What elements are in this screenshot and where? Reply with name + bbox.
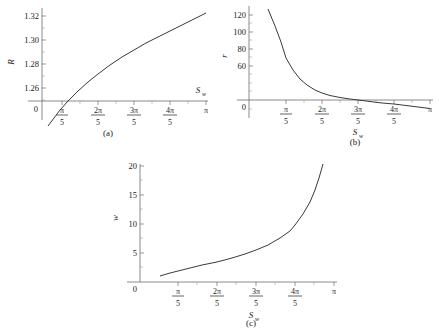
x-tick-label-b-2-den: 5: [320, 117, 324, 126]
x-tick-label-c-2-den: 5: [215, 299, 219, 308]
y-tick-label-a-1: 1.26: [24, 83, 39, 93]
x-tick-label-b-3-num: 3π: [354, 105, 362, 114]
panel-a: 1.32 1.30 1.28 1.26 0 R π 5 2π 5 3π 5 4π…: [0, 0, 215, 150]
plot-c-svg: 20 15 10 5 0 w π 5 2π 5 3π 5 4π 5 π S w: [105, 160, 345, 334]
origin-label-a: 0: [34, 104, 38, 114]
y-axis-label-b: r: [219, 54, 229, 58]
x-tick-label-b-1-num: π: [284, 105, 288, 114]
x-axis-label-b: S: [353, 127, 358, 137]
panel-c: 20 15 10 5 0 w π 5 2π 5 3π 5 4π 5 π S w: [105, 160, 345, 334]
plot-b-svg: 120 100 80 60 0 r π 5 2π 5 3π 5 4π 5 π S…: [215, 0, 439, 155]
panel-b: 120 100 80 60 0 r π 5 2π 5 3π 5 4π 5 π S…: [215, 0, 439, 155]
curve-b: [268, 9, 430, 109]
x-tick-label-b-3-den: 5: [356, 117, 360, 126]
panel-b-caption: (b): [335, 137, 375, 147]
x-tick-label-a-3-num: 3π: [130, 106, 138, 115]
x-tick-label-a-1-den: 5: [60, 118, 64, 127]
y-tick-label-a-3: 1.30: [24, 35, 39, 45]
x-tick-label-a-4-num: 4π: [166, 106, 174, 115]
x-tick-label-a-2-den: 5: [96, 118, 100, 127]
y-tick-label-c-5: 5: [133, 248, 137, 258]
x-tick-label-a-5: π: [204, 106, 208, 115]
x-tick-label-a-3-den: 5: [132, 118, 136, 127]
x-tick-label-b-4-num: 4π: [390, 105, 398, 114]
y-tick-label-a-4: 1.32: [24, 11, 39, 21]
x-tick-label-b-1-den: 5: [284, 117, 288, 126]
y-tick-label-b-120: 120: [233, 10, 246, 20]
x-tick-label-b-5: π: [428, 105, 432, 114]
origin-label-c: 0: [133, 284, 137, 294]
y-tick-label-a-2: 1.28: [24, 59, 39, 69]
x-tick-label-a-4-den: 5: [168, 118, 172, 127]
x-axis-label-a: S: [196, 85, 201, 95]
x-tick-label-c-5: π: [332, 287, 336, 296]
x-tick-label-b-4-den: 5: [392, 117, 396, 126]
x-tick-label-c-3-den: 5: [254, 299, 258, 308]
origin-label-b: 0: [242, 102, 246, 112]
y-tick-label-c-20: 20: [129, 161, 138, 171]
x-tick-label-a-2-num: 2π: [94, 106, 102, 115]
x-tick-label-c-4-num: 4π: [291, 287, 299, 296]
x-axis-label-a-sub: w: [202, 91, 206, 97]
y-axis-label-a: R: [6, 59, 16, 66]
y-tick-label-b-80: 80: [238, 44, 247, 54]
y-tick-label-b-100: 100: [233, 27, 246, 37]
panel-c-caption: (c): [231, 318, 271, 328]
x-tick-label-c-4-den: 5: [293, 299, 297, 308]
y-axis-label-c: w: [110, 215, 120, 221]
x-tick-label-c-3-num: 3π: [252, 287, 260, 296]
x-tick-label-c-1-den: 5: [176, 299, 180, 308]
panel-a-caption: (a): [88, 128, 128, 138]
curve-c: [160, 164, 323, 276]
x-tick-label-b-2-num: 2π: [318, 105, 326, 114]
x-tick-label-c-2-num: 2π: [213, 287, 221, 296]
y-tick-label-c-10: 10: [129, 219, 138, 229]
x-tick-label-c-1-num: π: [176, 287, 180, 296]
y-tick-label-c-15: 15: [129, 190, 138, 200]
y-tick-label-b-60: 60: [238, 61, 247, 71]
curve-a: [48, 13, 206, 126]
